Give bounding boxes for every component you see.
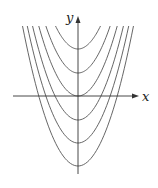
x-axis-arrow-icon — [132, 94, 139, 99]
parabola-family-diagram: x y — [0, 0, 158, 188]
y-axis-arrow-icon — [76, 16, 81, 23]
x-axis-label: x — [142, 89, 150, 104]
y-axis-label: y — [65, 10, 74, 25]
